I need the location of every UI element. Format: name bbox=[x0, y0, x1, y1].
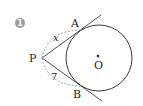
label-p: P bbox=[29, 52, 37, 65]
center-point bbox=[97, 55, 100, 58]
tangent-lengths-figure: 1 A P B O x 7 bbox=[0, 0, 143, 106]
label-o: O bbox=[94, 59, 103, 72]
problem-number: 1 bbox=[17, 19, 23, 28]
label-b: B bbox=[73, 88, 81, 101]
circle-o bbox=[66, 25, 132, 91]
geometry-diagram: 1 A P B O x 7 bbox=[0, 0, 143, 106]
segment-pa-length: x bbox=[53, 32, 59, 43]
segment-pb-length: 7 bbox=[51, 71, 57, 82]
label-a: A bbox=[70, 17, 80, 30]
problem-number-badge: 1 bbox=[15, 18, 25, 28]
